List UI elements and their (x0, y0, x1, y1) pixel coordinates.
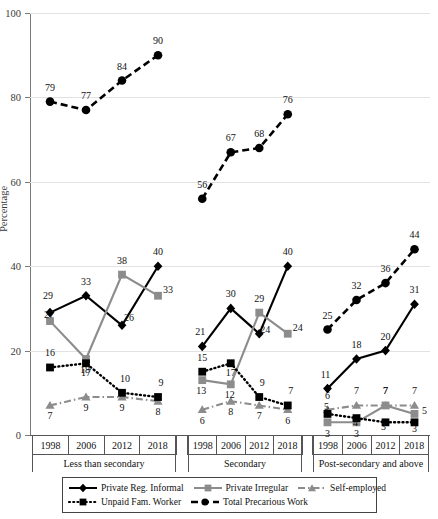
x-tick-2012: 2012 (372, 436, 401, 454)
gridline-40 (30, 266, 430, 267)
y-tick-100: 100 (5, 8, 21, 19)
y-tick-0: 0 (16, 430, 21, 441)
data-label: 7 (383, 385, 388, 396)
data-label: 40 (283, 246, 293, 257)
y-axis-tick-labels: 020406080100 (0, 13, 28, 435)
data-label: 16 (45, 347, 55, 358)
x-axis-group-label: Post-secondary and above (314, 455, 428, 472)
data-label: 36 (381, 263, 391, 274)
x-axis-group-2: 1998200620122018Secondary (188, 436, 302, 472)
data-label: 26 (124, 312, 134, 323)
legend-item-label: Private Reg. Informal (101, 483, 184, 493)
data-label: 9 (260, 377, 265, 388)
x-tick-2018: 2018 (274, 436, 301, 454)
data-label: 33 (163, 284, 173, 295)
y-tick-mark-20 (25, 351, 30, 352)
data-label: 67 (226, 132, 236, 143)
x-axis-spacer-2 (302, 436, 313, 455)
x-axis-year-row: 1998200620122018 (33, 436, 175, 455)
line-square-solid-gray-icon (193, 482, 223, 494)
y-tick-mark-100 (25, 13, 30, 14)
y-tick-20: 20 (11, 345, 22, 356)
data-label: 7 (257, 410, 262, 421)
data-label: 11 (321, 369, 331, 380)
x-axis-group-label: Secondary (189, 455, 301, 472)
data-label: 7 (48, 410, 53, 421)
data-label: 31 (410, 284, 420, 295)
legend-item-label: Unpaid Fam. Worker (101, 497, 181, 507)
x-axis-spacer-1 (176, 436, 188, 455)
data-label: 6 (285, 415, 290, 426)
data-label: 56 (197, 179, 207, 190)
data-label: 3 (381, 421, 386, 432)
line-square-dotted-black-icon (68, 496, 98, 508)
legend-row-1: Private Reg. InformalPrivate IrregularSe… (68, 481, 371, 495)
legend-item-self-employed[interactable]: Self-employed (297, 482, 386, 494)
data-label: 8 (228, 406, 233, 417)
legend-item-private-reg-informal[interactable]: Private Reg. Informal (68, 482, 184, 494)
data-label: 30 (226, 288, 236, 299)
data-label: 17 (81, 367, 91, 378)
x-axis-year-row: 1998200620122018 (189, 436, 301, 455)
data-label: 5 (324, 401, 329, 412)
data-label: 12 (225, 389, 235, 400)
x-tick-1998: 1998 (33, 436, 69, 454)
x-tick-1998: 1998 (189, 436, 217, 454)
data-label: 76 (283, 94, 293, 105)
data-label: 8 (156, 406, 161, 417)
legend-item-private-irregular[interactable]: Private Irregular (193, 482, 289, 494)
gridline-60 (30, 182, 430, 183)
data-label: 79 (45, 82, 55, 93)
data-label: 68 (254, 128, 264, 139)
data-label: 7 (354, 385, 359, 396)
data-label: 29 (254, 293, 264, 304)
legend-item-unpaid-fam-worker[interactable]: Unpaid Fam. Worker (68, 496, 181, 508)
data-label: 25 (323, 310, 333, 321)
x-tick-2018: 2018 (400, 436, 428, 454)
line-triangle-dashdot-gray-icon (297, 482, 327, 494)
data-label: 15 (197, 352, 207, 363)
gridline-100 (30, 13, 430, 14)
data-label: 77 (81, 90, 91, 101)
data-label: 9 (159, 377, 164, 388)
y-tick-mark-40 (25, 266, 30, 267)
data-label: 5 (422, 405, 427, 416)
legend-item-total-precarious-work[interactable]: Total Precarious Work (190, 496, 308, 508)
data-label: 44 (410, 229, 420, 240)
data-label: 6 (200, 415, 205, 426)
x-axis-group-label: Less than secondary (33, 455, 175, 472)
y-tick-80: 80 (11, 92, 22, 103)
x-tick-2006: 2006 (217, 436, 245, 454)
data-label: 13 (196, 385, 206, 396)
line-diamond-solid-black-icon (68, 482, 98, 494)
data-label: 10 (120, 373, 130, 384)
data-label: 6 (325, 390, 330, 401)
x-axis-groups: 1998200620122018Less than secondary19982… (30, 436, 430, 472)
x-axis-group-1: 1998200620122018Less than secondary (32, 436, 176, 472)
x-axis-group-3: 1998200620122018Post-secondary and above (313, 436, 429, 472)
x-tick-2012: 2012 (105, 436, 141, 454)
line-circle-dashed-black-icon (190, 496, 220, 508)
x-axis-year-row: 1998200620122018 (314, 436, 428, 455)
data-label: 3 (354, 428, 359, 439)
gridline-20 (30, 351, 430, 352)
data-label: 9 (120, 402, 125, 413)
y-tick-60: 60 (11, 176, 22, 187)
data-label: 17 (226, 367, 236, 378)
data-label: 24 (293, 322, 303, 333)
data-label: 9 (84, 402, 89, 413)
chart-figure: Percentage 020406080100 1998200620122018… (0, 0, 438, 519)
data-label: 18 (352, 339, 362, 350)
x-tick-2012: 2012 (246, 436, 274, 454)
legend-item-label: Self-employed (330, 483, 386, 493)
data-label: 27 (44, 309, 54, 320)
legend-item-label: Private Irregular (226, 483, 289, 493)
data-label: 29 (43, 290, 53, 301)
data-label: 38 (117, 255, 127, 266)
data-label: 7 (412, 385, 417, 396)
y-tick-mark-80 (25, 97, 30, 98)
chart-legend: Private Reg. InformalPrivate IrregularSe… (62, 477, 377, 513)
y-tick-40: 40 (11, 261, 22, 272)
data-label: 20 (381, 331, 391, 342)
x-tick-2006: 2006 (69, 436, 105, 454)
